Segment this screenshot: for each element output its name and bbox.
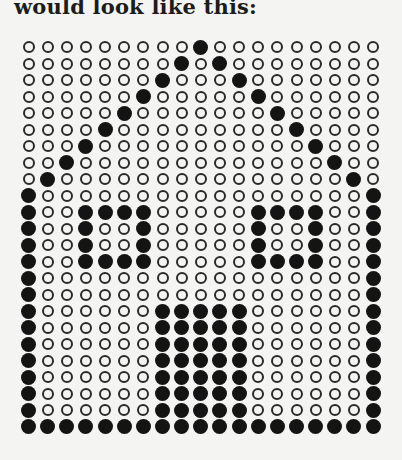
empty-ring-icon xyxy=(153,270,172,287)
filled-circle-glyph xyxy=(21,238,36,253)
filled-dot-icon xyxy=(172,402,191,419)
hollow-circle-glyph xyxy=(23,157,35,169)
hollow-circle-glyph xyxy=(42,124,54,136)
hollow-circle-glyph xyxy=(99,223,111,235)
hollow-circle-glyph xyxy=(271,289,283,301)
empty-ring-icon xyxy=(134,39,153,56)
empty-ring-icon xyxy=(57,105,76,122)
empty-ring-icon xyxy=(57,56,76,73)
empty-ring-icon xyxy=(268,89,287,106)
hollow-circle-glyph xyxy=(61,272,73,284)
empty-ring-icon xyxy=(76,320,95,337)
hollow-circle-glyph xyxy=(80,41,92,53)
empty-ring-icon xyxy=(115,386,134,403)
filled-circle-glyph xyxy=(136,221,151,236)
empty-ring-icon xyxy=(364,56,383,73)
hollow-circle-glyph xyxy=(99,91,111,103)
filled-circle-glyph xyxy=(136,419,151,434)
filled-circle-glyph xyxy=(117,419,132,434)
hollow-circle-glyph xyxy=(348,41,360,53)
filled-dot-icon xyxy=(19,369,38,386)
filled-circle-glyph xyxy=(366,403,381,418)
empty-ring-icon xyxy=(344,254,363,271)
hollow-circle-glyph xyxy=(195,272,207,284)
empty-ring-icon xyxy=(287,386,306,403)
hollow-circle-glyph xyxy=(195,124,207,136)
empty-ring-icon xyxy=(76,303,95,320)
hollow-circle-glyph xyxy=(61,206,73,218)
empty-ring-icon xyxy=(268,303,287,320)
filled-dot-icon xyxy=(230,336,249,353)
empty-ring-icon xyxy=(153,105,172,122)
hollow-circle-glyph xyxy=(80,190,92,202)
hollow-circle-glyph xyxy=(271,338,283,350)
hollow-circle-glyph xyxy=(271,91,283,103)
empty-ring-icon xyxy=(191,221,210,238)
empty-ring-icon xyxy=(96,369,115,386)
empty-ring-icon xyxy=(306,89,325,106)
hollow-circle-glyph xyxy=(214,239,226,251)
empty-ring-icon xyxy=(249,287,268,304)
empty-ring-icon xyxy=(344,188,363,205)
hollow-circle-glyph xyxy=(42,239,54,251)
empty-ring-icon xyxy=(344,72,363,89)
filled-dot-icon xyxy=(134,89,153,106)
filled-circle-glyph xyxy=(40,172,55,187)
filled-dot-icon xyxy=(153,336,172,353)
hollow-circle-glyph xyxy=(291,338,303,350)
filled-dot-icon xyxy=(172,386,191,403)
hollow-circle-glyph xyxy=(329,272,341,284)
hollow-circle-glyph xyxy=(137,140,149,152)
hollow-circle-glyph xyxy=(291,272,303,284)
empty-ring-icon xyxy=(134,105,153,122)
hollow-circle-glyph xyxy=(329,338,341,350)
hollow-circle-glyph xyxy=(329,404,341,416)
empty-ring-icon xyxy=(306,188,325,205)
filled-dot-icon xyxy=(249,419,268,436)
hollow-circle-glyph xyxy=(329,91,341,103)
empty-ring-icon xyxy=(153,56,172,73)
filled-circle-glyph xyxy=(174,370,189,385)
hollow-circle-glyph xyxy=(80,107,92,119)
empty-ring-icon xyxy=(76,72,95,89)
hollow-circle-glyph xyxy=(99,305,111,317)
filled-circle-glyph xyxy=(174,353,189,368)
empty-ring-icon xyxy=(191,56,210,73)
hollow-circle-glyph xyxy=(176,74,188,86)
hollow-circle-glyph xyxy=(195,206,207,218)
hollow-circle-glyph xyxy=(348,256,360,268)
empty-ring-icon xyxy=(115,56,134,73)
empty-ring-icon xyxy=(57,402,76,419)
empty-ring-icon xyxy=(325,188,344,205)
hollow-circle-glyph xyxy=(233,239,245,251)
hollow-circle-glyph xyxy=(157,223,169,235)
hollow-circle-glyph xyxy=(271,305,283,317)
filled-dot-icon xyxy=(364,188,383,205)
hollow-circle-glyph xyxy=(233,107,245,119)
filled-circle-glyph xyxy=(308,221,323,236)
hollow-circle-glyph xyxy=(157,190,169,202)
hollow-circle-glyph xyxy=(176,272,188,284)
hollow-circle-glyph xyxy=(61,404,73,416)
empty-ring-icon xyxy=(249,122,268,139)
empty-ring-icon xyxy=(287,138,306,155)
filled-dot-icon xyxy=(287,122,306,139)
filled-circle-glyph xyxy=(232,353,247,368)
hollow-circle-glyph xyxy=(367,173,379,185)
filled-circle-glyph xyxy=(212,337,227,352)
empty-ring-icon xyxy=(210,138,229,155)
hollow-circle-glyph xyxy=(80,289,92,301)
hollow-circle-glyph xyxy=(99,338,111,350)
hollow-circle-glyph xyxy=(137,338,149,350)
empty-ring-icon xyxy=(344,303,363,320)
hollow-circle-glyph xyxy=(118,371,130,383)
hollow-circle-glyph xyxy=(23,91,35,103)
empty-ring-icon xyxy=(268,39,287,56)
filled-circle-glyph xyxy=(366,353,381,368)
filled-circle-glyph xyxy=(174,403,189,418)
empty-ring-icon xyxy=(210,122,229,139)
empty-ring-icon xyxy=(364,138,383,155)
filled-circle-glyph xyxy=(155,386,170,401)
empty-ring-icon xyxy=(76,39,95,56)
empty-ring-icon xyxy=(249,155,268,172)
